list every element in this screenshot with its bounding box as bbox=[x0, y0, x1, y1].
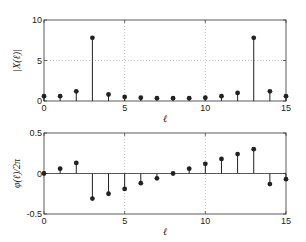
stem-marker bbox=[187, 166, 192, 171]
stem-marker bbox=[219, 94, 224, 99]
stem-marker bbox=[58, 166, 63, 171]
stem-marker bbox=[267, 89, 272, 94]
stem-marker bbox=[284, 94, 289, 99]
stem-marker bbox=[138, 181, 143, 186]
x-tick-label: 5 bbox=[122, 103, 127, 113]
stem-marker bbox=[90, 196, 95, 201]
stem-marker bbox=[187, 96, 192, 101]
x-tick-label: 15 bbox=[281, 216, 291, 226]
stem-marker bbox=[106, 92, 111, 97]
stem-marker bbox=[74, 161, 79, 166]
stem-marker bbox=[155, 96, 160, 101]
stem-marker bbox=[122, 186, 127, 191]
x-tick-label: 10 bbox=[200, 103, 210, 113]
y-axis-label: φ(ℓ)/2π bbox=[11, 158, 23, 188]
phase-plot: 051015-0.500.5ℓφ(ℓ)/2π bbox=[11, 128, 291, 237]
figure: 0510150510ℓ|X(ℓ)| 051015-0.500.5ℓφ(ℓ)/2π bbox=[0, 0, 306, 242]
x-tick-label: 10 bbox=[200, 216, 210, 226]
stem-marker bbox=[203, 95, 208, 100]
stem-marker bbox=[106, 191, 111, 196]
x-tick-label: 0 bbox=[41, 103, 46, 113]
stem-marker bbox=[251, 35, 256, 40]
y-tick-label: 0 bbox=[37, 169, 42, 179]
stem-marker bbox=[42, 94, 47, 99]
stem-marker bbox=[203, 161, 208, 166]
magnitude-plot: 0510150510ℓ|X(ℓ)| bbox=[11, 15, 291, 124]
stem-marker bbox=[219, 157, 224, 162]
x-axis-label: ℓ bbox=[163, 226, 167, 237]
stem-marker bbox=[235, 152, 240, 157]
y-tick-label: 0.5 bbox=[29, 128, 42, 138]
x-tick-label: 5 bbox=[122, 216, 127, 226]
stem-marker bbox=[74, 89, 79, 94]
stem-marker bbox=[138, 95, 143, 100]
stem-marker bbox=[42, 171, 47, 176]
stem-marker bbox=[155, 176, 160, 181]
x-tick-label: 15 bbox=[281, 103, 291, 113]
y-tick-label: 0 bbox=[37, 96, 42, 106]
stem-marker bbox=[235, 91, 240, 96]
stem-marker bbox=[90, 35, 95, 40]
stem-marker bbox=[171, 171, 176, 176]
y-tick-label: -0.5 bbox=[26, 209, 42, 219]
stem-marker bbox=[122, 95, 127, 100]
x-tick-label: 0 bbox=[41, 216, 46, 226]
stem-marker bbox=[171, 96, 176, 101]
stem-marker bbox=[58, 94, 63, 99]
y-tick-label: 10 bbox=[32, 15, 42, 25]
x-axis-label: ℓ bbox=[163, 113, 167, 124]
y-tick-label: 5 bbox=[37, 56, 42, 66]
stem-marker bbox=[284, 177, 289, 182]
y-axis-label: |X(ℓ)| bbox=[11, 49, 23, 71]
stem-marker bbox=[267, 182, 272, 187]
stem-marker bbox=[251, 147, 256, 152]
